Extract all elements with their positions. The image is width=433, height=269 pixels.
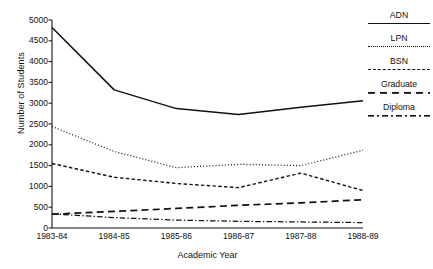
y-tick-label: 1500: [12, 161, 48, 170]
y-tick-label: 4500: [12, 36, 48, 45]
series-line-lpn: [52, 127, 363, 168]
y-tick-label: 2000: [12, 140, 48, 149]
legend-item-diploma[interactable]: Diploma: [366, 102, 432, 125]
legend-item-bsn[interactable]: BSN: [366, 56, 432, 79]
x-tick-label: 1987-88: [285, 232, 316, 241]
series-line-adn: [52, 27, 363, 114]
y-tick-label: 3500: [12, 78, 48, 87]
legend-item-lpn[interactable]: LPN: [366, 33, 432, 56]
line-chart-figure: Number of Students Academic Year 5000450…: [0, 0, 433, 269]
x-tick-label: 1983-84: [36, 232, 67, 241]
series-line-graduate: [52, 200, 363, 215]
x-tick-label: 1986-87: [223, 232, 254, 241]
legend-swatch-dotted: [368, 46, 430, 50]
legend-label: BSN: [366, 56, 432, 66]
y-tick-label: 500: [12, 203, 48, 212]
legend-swatch-dashed: [368, 69, 430, 73]
y-tick-label: 2500: [12, 120, 48, 129]
x-tick-label: 1985-86: [161, 232, 192, 241]
y-tick-label: 1000: [12, 182, 48, 191]
x-tick-label: 1984-85: [99, 232, 130, 241]
y-tick-label: 3000: [12, 99, 48, 108]
legend-item-graduate[interactable]: Graduate: [366, 79, 432, 102]
y-tick-label: 5000: [12, 16, 48, 25]
x-axis-title: Academic Year: [50, 250, 365, 260]
y-tick-label: 4000: [12, 57, 48, 66]
legend-label: LPN: [366, 33, 432, 43]
y-axis-tick-labels: 5000450040003500300025002000150010005000: [12, 0, 48, 269]
legend-swatch-dashdot: [368, 115, 430, 117]
legend-label: Diploma: [366, 102, 432, 112]
legend-label: Graduate: [366, 79, 432, 89]
legend-item-adn[interactable]: ADN: [366, 10, 432, 33]
legend-swatch-longdash: [368, 92, 430, 94]
chart-legend: ADNLPNBSNGraduateDiploma: [366, 10, 432, 125]
series-line-bsn: [52, 164, 363, 191]
legend-swatch-solid: [368, 23, 430, 27]
series-line-diploma: [52, 214, 363, 223]
legend-label: ADN: [366, 10, 432, 20]
x-tick-label: 1988-89: [347, 232, 378, 241]
